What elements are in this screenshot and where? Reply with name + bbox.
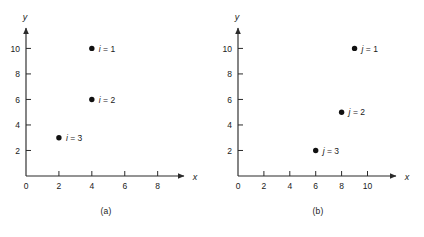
y-tick-label: 8 bbox=[227, 69, 232, 79]
scatter-plot-figure: yx02468246810i= 1i= 2i= 3 (a) yx02468102… bbox=[0, 0, 424, 237]
data-point-marker bbox=[89, 46, 94, 51]
data-point-marker bbox=[339, 110, 344, 115]
data-point-label-variable: i bbox=[99, 44, 102, 54]
x-axis-title: x bbox=[192, 172, 198, 182]
panel-a: yx02468246810i= 1i= 2i= 3 (a) bbox=[0, 0, 212, 237]
y-tick-label: 10 bbox=[11, 44, 21, 54]
data-point-label-variable: j bbox=[361, 44, 365, 54]
data-point-group: j= 2 bbox=[339, 107, 365, 117]
data-point-group: i= 2 bbox=[89, 95, 115, 105]
data-point-label-value: = 3 bbox=[70, 133, 82, 143]
x-tick-label: 0 bbox=[24, 181, 29, 191]
data-point-label-variable: j bbox=[348, 107, 352, 117]
y-tick-label: 6 bbox=[15, 95, 20, 105]
x-tick-label: 10 bbox=[363, 181, 373, 191]
data-point-label: i= 3 bbox=[66, 133, 83, 143]
x-tick-label: 0 bbox=[236, 181, 241, 191]
data-point-label-value: = 1 bbox=[103, 44, 115, 54]
data-point-label: j= 3 bbox=[322, 146, 340, 156]
y-tick-label: 2 bbox=[227, 146, 232, 156]
data-point-label-value: = 2 bbox=[353, 107, 365, 117]
panel-caption-a: (a) bbox=[0, 206, 212, 216]
scatter-chart-a: yx02468246810i= 1i= 2i= 3 bbox=[0, 0, 212, 200]
x-tick-label: 2 bbox=[262, 181, 267, 191]
data-point-label-variable: i bbox=[66, 133, 69, 143]
data-point-group: i= 1 bbox=[89, 44, 115, 54]
y-tick-label: 6 bbox=[227, 95, 232, 105]
y-tick-label: 8 bbox=[15, 69, 20, 79]
data-point-group: j= 3 bbox=[313, 146, 339, 156]
data-point-label: i= 2 bbox=[99, 95, 116, 105]
data-point-marker bbox=[313, 148, 318, 153]
x-tick-label: 6 bbox=[313, 181, 318, 191]
y-tick-label: 2 bbox=[15, 146, 20, 156]
panel-caption-b: (b) bbox=[212, 206, 424, 216]
plot-area-b: yx0246810246810j= 1j= 2j= 3 bbox=[212, 0, 424, 200]
panel-b: yx0246810246810j= 1j= 2j= 3 (b) bbox=[212, 0, 424, 237]
data-point-marker bbox=[89, 97, 94, 102]
plot-area-a: yx02468246810i= 1i= 2i= 3 bbox=[0, 0, 212, 200]
data-point-group: j= 1 bbox=[352, 44, 378, 54]
y-axis-title: y bbox=[22, 12, 28, 22]
x-tick-label: 6 bbox=[122, 181, 127, 191]
data-point-label-variable: i bbox=[99, 95, 102, 105]
y-tick-label: 10 bbox=[223, 44, 233, 54]
x-tick-label: 2 bbox=[57, 181, 62, 191]
x-tick-label: 4 bbox=[287, 181, 292, 191]
x-tick-label: 8 bbox=[155, 181, 160, 191]
y-tick-label: 4 bbox=[227, 120, 232, 130]
data-point-label: j= 2 bbox=[348, 107, 366, 117]
scatter-chart-b: yx0246810246810j= 1j= 2j= 3 bbox=[212, 0, 424, 200]
x-tick-label: 8 bbox=[339, 181, 344, 191]
y-tick-label: 4 bbox=[15, 120, 20, 130]
data-point-group: i= 3 bbox=[56, 133, 82, 143]
data-point-label: j= 1 bbox=[361, 44, 379, 54]
x-axis-title: x bbox=[404, 172, 410, 182]
data-point-label: i= 1 bbox=[99, 44, 116, 54]
x-tick-label: 4 bbox=[89, 181, 94, 191]
y-axis-title: y bbox=[234, 12, 240, 22]
data-point-marker bbox=[352, 46, 357, 51]
data-point-label-value: = 2 bbox=[103, 95, 115, 105]
data-point-label-value: = 1 bbox=[366, 44, 378, 54]
data-point-label-variable: j bbox=[322, 146, 326, 156]
data-point-label-value: = 3 bbox=[327, 146, 339, 156]
data-point-marker bbox=[56, 135, 61, 140]
